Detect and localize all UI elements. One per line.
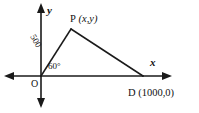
origin-label: O (31, 79, 38, 89)
angle-label: 60° (48, 62, 61, 71)
point-d-coords: (1000,0) (138, 87, 174, 98)
y-axis (37, 3, 45, 108)
x-axis-label: x (150, 57, 156, 68)
segment-pd (71, 29, 143, 76)
x-axis-arrow-right-icon (162, 72, 172, 80)
point-p-coords: (x,y) (78, 13, 97, 24)
y-axis-label: y (47, 5, 52, 16)
vertex-o-dot (40, 75, 42, 77)
geometry-figure: y x O P (x,y) D (1000,0) 60° 500 (0, 0, 199, 113)
point-p-label: P (x,y) (70, 14, 97, 25)
y-axis-arrow-up-icon (37, 3, 45, 13)
point-d-name: D (128, 87, 136, 98)
x-axis (4, 72, 172, 80)
vertex-p-dot (70, 28, 72, 30)
vertex-d-dot (142, 75, 144, 77)
point-d-label: D (1000,0) (128, 88, 174, 99)
y-axis-arrow-down-icon (37, 98, 45, 108)
x-axis-arrow-left-icon (4, 72, 14, 80)
